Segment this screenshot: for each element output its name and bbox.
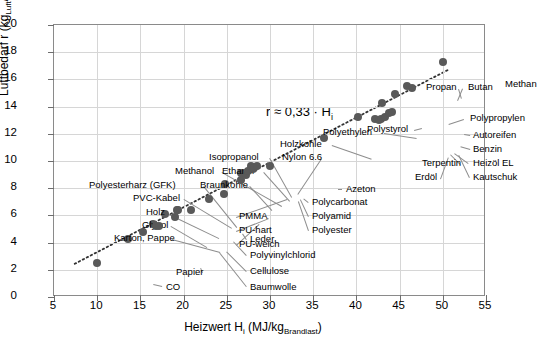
y-axis-tick-label: 2 [0,263,17,274]
data-point-label: Butan [468,82,493,92]
data-point[interactable] [187,206,195,214]
data-point-label: Karton, Pappe [114,233,175,243]
data-point-label: Heizöl EL [473,158,514,168]
data-point-label: PMMA [239,211,268,221]
x-axis-tick-label: 30 [249,300,289,311]
x-axis-tick-label: 20 [163,300,203,311]
x-axis-tick-label: 35 [292,300,332,311]
x-axis-tick-label: 15 [119,300,159,311]
y-axis-tick [48,52,54,53]
y-axis-tick [48,270,54,271]
gridline-horizontal [54,107,484,108]
data-point-label: Holzkohle [280,139,322,149]
data-point-label: Benzin [473,144,502,154]
data-point-label: Papier [176,267,203,277]
data-point-label: Erdöl [415,172,437,182]
data-point-label: Azeton [346,184,376,194]
data-point-label: Polyesterharz (GFK) [89,180,176,190]
y-axis-tick-label: 16 [0,72,17,83]
x-axis-tick-label: 50 [422,300,462,311]
data-point[interactable] [439,58,447,66]
y-axis-tick [48,161,54,162]
x-axis-tick-label: 40 [335,300,375,311]
data-point-label: Isopropanol [209,152,259,162]
data-point[interactable] [408,84,416,92]
data-point-label: CO [166,282,180,292]
data-point[interactable] [220,190,228,198]
y-axis-tick [48,134,54,135]
gridline-horizontal [54,79,484,80]
gridline-vertical [356,25,357,295]
data-point-label: Nylon 6.6 [282,152,322,162]
gridline-horizontal [54,52,484,53]
y-axis-tick [48,25,54,26]
data-point[interactable] [378,99,386,107]
y-axis-tick-label: 12 [0,127,17,138]
data-point-label: Kautschuk [473,172,517,182]
data-point[interactable] [388,108,396,116]
data-point-label: Propan [426,82,457,92]
data-point-label: Polystyrol [367,124,408,134]
data-point-label: Polyethylen [323,127,372,137]
data-point-label: Polypropylen [470,113,525,123]
gridline-vertical [140,25,141,295]
leader-line [338,189,342,190]
data-point-label: Autoreifen [473,130,516,140]
data-point-label: Cellulose [250,266,289,276]
y-axis-tick-label: 0 [0,290,17,301]
data-point-label: Polyvinylchlorid [250,250,315,260]
gridline-vertical [97,25,98,295]
data-point[interactable] [205,195,213,203]
x-axis-tick-label: 45 [379,300,419,311]
data-point-label: PU-hart [239,225,272,235]
data-point-label: Polyester [312,225,352,235]
y-axis-tick [48,107,54,108]
x-axis-tick-label: 10 [76,300,116,311]
y-axis-tick-label: 8 [0,181,17,192]
x-axis-tick-label: 25 [206,300,246,311]
y-axis-tick-label: 18 [0,45,17,56]
gridline-horizontal [54,134,484,135]
x-axis-tick-label: 55 [465,300,505,311]
y-axis-tick [48,79,54,80]
data-point-label: Holz [146,207,165,217]
gridline-vertical [400,25,401,295]
gridline-vertical [184,25,185,295]
y-axis-tick-label: 20 [0,18,17,29]
data-point-label: PU-weich [239,239,280,249]
data-point-label: PVC-Kabel [133,193,180,203]
y-axis-tick-label: 14 [0,100,17,111]
y-axis-tick-label: 4 [0,236,17,247]
y-axis-tick-label: 10 [0,154,17,165]
plot-area: r ≈ 0,33 · Hi COPapierKarton, PappeGlyco… [53,24,485,296]
data-point-label: Methan [505,79,537,89]
data-point-label: Polyamid [312,211,351,221]
y-axis-tick [48,215,54,216]
y-axis-tick [48,188,54,189]
x-axis-tick-label: 5 [33,300,73,311]
data-point-label: Methanol [175,166,214,176]
data-point-label: Baumwolle [250,282,296,292]
y-axis-tick-label: 6 [0,208,17,219]
gridline-horizontal [54,215,484,216]
x-axis-title: Heizwert Hi (MJ/kgBrandlast) [0,320,506,336]
data-point-label: Polycarbonat [312,197,367,207]
y-axis-tick [48,243,54,244]
data-point-label: Terpentin [422,158,461,168]
